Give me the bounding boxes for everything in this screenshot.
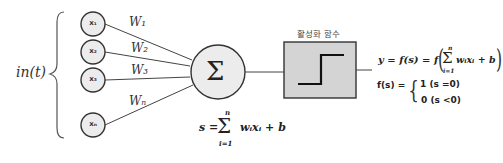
sum-formula-bottom: i=1 — [219, 139, 232, 148]
piecewise-brace: { — [408, 76, 419, 104]
sum-formula-sigma: Σ — [217, 114, 231, 138]
weight-label-w1: W₁ — [129, 15, 146, 29]
weight-label-wn: Wₙ — [129, 94, 146, 108]
piecewise-case-2: 0 (s <0) — [421, 95, 461, 105]
weight-label-w3: W₃ — [131, 63, 148, 77]
output-formula-rhs: wᵢxᵢ + b — [456, 54, 496, 65]
input-group-label: in(t) — [16, 64, 46, 80]
paren-close: ) — [496, 44, 502, 74]
piecewise-lhs: f(s) = — [377, 80, 405, 90]
input-label-x3: x₃ — [83, 75, 103, 83]
input-label-xn: xₙ — [83, 120, 103, 128]
edge-xn — [105, 85, 193, 125]
sum-formula-rhs: wᵢxᵢ + b — [240, 121, 286, 134]
output-formula-sigma: Σ — [442, 49, 453, 67]
activation-title: 활성화 함수 — [297, 27, 340, 39]
input-label-x1: x₁ — [83, 19, 103, 27]
output-formula-lhs: y = f(s) = f — [378, 54, 438, 65]
sum-formula-lhs: s = — [199, 121, 218, 134]
output-formula-bottom: i=1 — [443, 67, 454, 74]
weight-label-w2: W₂ — [131, 41, 148, 55]
edge-x3 — [105, 77, 190, 80]
sigma-icon: Σ — [206, 56, 224, 86]
input-brace — [50, 12, 64, 138]
piecewise-case-1: 1 (s =0) — [420, 79, 460, 89]
input-label-x2: x₂ — [83, 47, 103, 55]
